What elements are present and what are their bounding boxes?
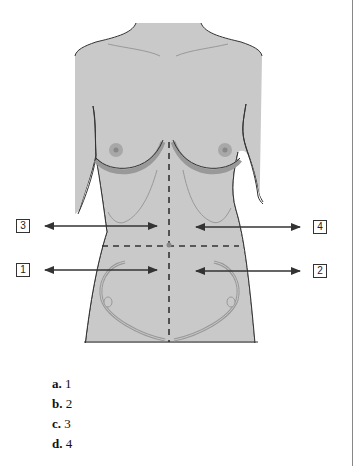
option-value: 2 xyxy=(66,396,73,411)
option-letter: d. xyxy=(52,436,62,451)
nipple-left xyxy=(114,148,119,153)
option-letter: a. xyxy=(52,376,62,391)
torso-diagram: 3 4 1 2 xyxy=(0,0,353,360)
option-letter: b. xyxy=(52,396,62,411)
option-value: 3 xyxy=(64,416,71,431)
option-b[interactable]: b. 2 xyxy=(52,394,72,414)
label-1: 1 xyxy=(16,263,30,277)
umbilicus xyxy=(167,243,172,248)
option-d[interactable]: d. 4 xyxy=(52,434,72,454)
answer-options: a. 1 b. 2 c. 3 d. 4 xyxy=(52,374,72,454)
option-value: 1 xyxy=(65,376,72,391)
torso-illustration xyxy=(0,0,353,360)
option-letter: c. xyxy=(52,416,61,431)
label-2: 2 xyxy=(313,264,327,278)
option-a[interactable]: a. 1 xyxy=(52,374,72,394)
nipple-right xyxy=(223,148,228,153)
option-value: 4 xyxy=(66,436,73,451)
label-3: 3 xyxy=(16,219,30,233)
label-4: 4 xyxy=(313,220,327,234)
option-c[interactable]: c. 3 xyxy=(52,414,72,434)
